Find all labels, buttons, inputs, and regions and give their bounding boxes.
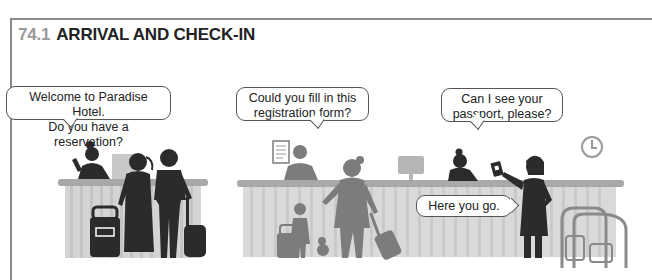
bubble-line: passport, please? bbox=[448, 107, 556, 122]
bubble-line: Here you go. bbox=[423, 199, 505, 214]
bubble-line: Welcome to Paradise Hotel. bbox=[13, 90, 164, 120]
monitor-icon bbox=[398, 156, 424, 174]
teddy-bear-icon bbox=[318, 237, 326, 245]
bubble-line: registration form? bbox=[243, 106, 362, 121]
speech-bubble-passport: Can I see your passport, please? bbox=[441, 88, 563, 122]
bubble-line: Do you have a reservation? bbox=[13, 120, 164, 150]
speech-bubble-welcome: Welcome to Paradise Hotel. Do you have a… bbox=[6, 86, 171, 120]
receptionist-icon bbox=[448, 149, 478, 182]
bubble-line: Can I see your bbox=[448, 92, 556, 107]
bubble-line: Could you fill in this bbox=[243, 91, 362, 106]
registration-form-icon bbox=[273, 141, 289, 163]
speech-bubble-here-you-go: Here you go. bbox=[416, 195, 512, 217]
clock-icon bbox=[582, 137, 602, 157]
passport-icon bbox=[490, 161, 503, 177]
speech-bubble-registration: Could you fill in this registration form… bbox=[236, 87, 369, 121]
